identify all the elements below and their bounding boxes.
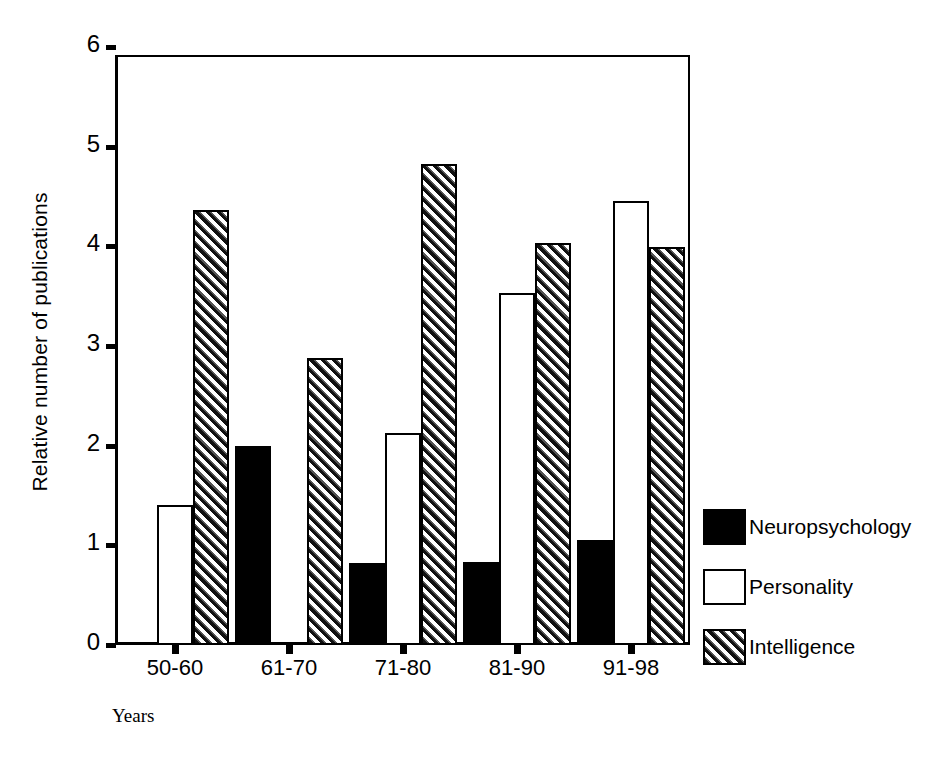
x-axis-label: Years bbox=[112, 705, 154, 727]
y-axis-tick-label: 2 bbox=[60, 431, 100, 455]
x-axis-tick bbox=[628, 645, 635, 654]
bar-neuropsychology-61-70 bbox=[235, 446, 271, 645]
x-axis-tick-label: 50-60 bbox=[115, 655, 235, 681]
bar-personality-81-90 bbox=[499, 293, 535, 645]
y-axis-tick-label: 3 bbox=[60, 331, 100, 355]
legend-item-intelligence[interactable]: Intelligence bbox=[703, 617, 911, 677]
legend-swatch-personality-icon bbox=[703, 569, 746, 605]
chart-legend: NeuropsychologyPersonalityIntelligence bbox=[703, 497, 911, 677]
bar-intelligence-71-80 bbox=[421, 164, 457, 645]
legend-swatch-neuropsychology-icon bbox=[703, 509, 746, 545]
y-axis-tick-label: 1 bbox=[60, 530, 100, 554]
bar-personality-50-60 bbox=[157, 505, 193, 645]
y-axis-tick bbox=[106, 145, 116, 150]
x-axis-tick-label: 71-80 bbox=[343, 655, 463, 681]
bar-intelligence-81-90 bbox=[535, 243, 571, 645]
y-axis-tick-label: 6 bbox=[60, 32, 100, 56]
bar-neuropsychology-91-98 bbox=[577, 540, 613, 645]
y-axis-tick bbox=[106, 543, 116, 548]
bar-intelligence-61-70 bbox=[307, 358, 343, 645]
bar-intelligence-50-60 bbox=[193, 210, 229, 645]
y-axis-tick bbox=[106, 45, 116, 50]
x-axis-tick bbox=[514, 645, 521, 654]
legend-item-neuropsychology[interactable]: Neuropsychology bbox=[703, 497, 911, 557]
x-axis-tick bbox=[286, 645, 293, 654]
y-axis-tick bbox=[106, 643, 116, 648]
y-axis-tick-label: 0 bbox=[60, 630, 100, 654]
y-axis-tick bbox=[106, 444, 116, 449]
legend-swatch-intelligence-icon bbox=[703, 629, 746, 665]
y-axis-label: Relative number of publications bbox=[28, 142, 52, 542]
legend-item-label: Intelligence bbox=[749, 635, 855, 659]
x-axis-tick bbox=[400, 645, 407, 654]
chart-figure: Relative number of publications 0123456 … bbox=[0, 0, 947, 771]
bar-intelligence-91-98 bbox=[649, 247, 685, 645]
bar-personality-91-98 bbox=[613, 201, 649, 645]
x-axis-tick-label: 91-98 bbox=[571, 655, 691, 681]
legend-item-label: Neuropsychology bbox=[749, 515, 911, 539]
y-axis-tick bbox=[106, 244, 116, 249]
y-axis-tick-label: 5 bbox=[60, 132, 100, 156]
legend-item-label: Personality bbox=[749, 575, 853, 599]
x-axis-tick-label: 81-90 bbox=[457, 655, 577, 681]
bar-neuropsychology-81-90 bbox=[463, 562, 499, 645]
bar-personality-71-80 bbox=[385, 433, 421, 645]
x-axis-tick bbox=[172, 645, 179, 654]
legend-item-personality[interactable]: Personality bbox=[703, 557, 911, 617]
bars-layer bbox=[118, 56, 688, 645]
y-axis-tick-label: 4 bbox=[60, 231, 100, 255]
x-axis-tick-label: 61-70 bbox=[229, 655, 349, 681]
y-axis-tick bbox=[106, 344, 116, 349]
bar-neuropsychology-71-80 bbox=[349, 563, 385, 645]
